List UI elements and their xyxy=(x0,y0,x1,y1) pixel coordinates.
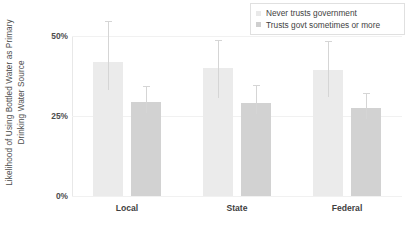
legend-swatch-icon xyxy=(256,22,261,27)
y-tick-label: 50% xyxy=(34,31,68,41)
error-bar-federal-series-1 xyxy=(328,42,329,96)
error-cap-top xyxy=(363,93,370,94)
bar-federal-series-2 xyxy=(351,108,381,196)
legend-label: Never trusts government xyxy=(266,8,357,18)
x-axis-category-labels: LocalStateFederal xyxy=(72,201,402,221)
legend: Never trusts governmentTrusts govt somet… xyxy=(250,3,405,35)
y-axis-title-line-1: Likelihood of Using Bottled Water as Pri… xyxy=(4,19,16,186)
y-axis-tick-labels: 50%25%0% xyxy=(30,0,68,232)
error-bar-state-series-2 xyxy=(256,86,257,115)
bar-state-series-2 xyxy=(241,103,271,196)
bar-group-local xyxy=(72,36,182,196)
y-tick-label: 25% xyxy=(34,111,68,121)
error-cap-top xyxy=(143,86,150,87)
y-axis-title: Likelihood of Using Bottled Water as Pri… xyxy=(0,0,30,205)
legend-item-2[interactable]: Trusts govt sometimes or more xyxy=(254,19,400,30)
error-bar-state-series-1 xyxy=(218,41,219,99)
error-cap-top xyxy=(105,21,112,22)
x-label-federal: Federal xyxy=(292,203,402,213)
error-cap-top xyxy=(325,41,332,42)
x-label-local: Local xyxy=(72,203,182,213)
gridline-0 xyxy=(72,196,402,197)
error-cap-top xyxy=(215,40,222,41)
error-bar-local-series-1 xyxy=(108,22,109,91)
plot-area xyxy=(72,36,402,196)
y-tick-label: 0% xyxy=(34,191,68,201)
legend-swatch-icon xyxy=(256,11,261,16)
error-cap-top xyxy=(253,85,260,86)
y-axis-title-line-2: Drinking Water Source xyxy=(15,19,27,186)
legend-label: Trusts govt sometimes or more xyxy=(266,20,380,30)
legend-item-1[interactable]: Never trusts government xyxy=(254,8,400,19)
bar-local-series-2 xyxy=(131,102,161,196)
error-bar-federal-series-2 xyxy=(366,94,367,120)
bar-group-federal xyxy=(292,36,402,196)
error-bar-local-series-2 xyxy=(146,87,147,113)
x-label-state: State xyxy=(182,203,292,213)
bar-group-state xyxy=(182,36,292,196)
bar-chart: Likelihood of Using Bottled Water as Pri… xyxy=(0,0,409,232)
